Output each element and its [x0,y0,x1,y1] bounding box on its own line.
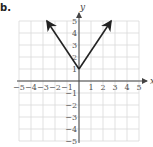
y-tick-label: 4 [72,29,77,38]
x-tick-label: −2 [49,83,61,92]
y-tick-label: −5 [65,137,77,146]
y-tick-label: −2 [65,101,77,110]
x-tick-label: 5 [136,83,141,92]
y-tick-label: −4 [65,125,77,134]
x-tick-label: 4 [124,83,129,92]
y-tick-label: 5 [72,17,77,26]
y-tick-label: 3 [72,41,77,50]
y-tick-label: −3 [65,113,77,122]
y-tick-label: −1 [65,89,77,98]
x-tick-label: 2 [100,83,105,92]
x-tick-label: −5 [13,83,25,92]
axes: xy [17,2,153,143]
x-tick-label: −3 [37,83,49,92]
x-tick-label: 1 [88,83,93,92]
x-tick-label: 3 [112,83,117,92]
x-tick-label: −4 [25,83,37,92]
y-axis-label: y [79,2,86,12]
y-tick-label: 1 [72,65,77,74]
x-axis-label: x [150,76,153,86]
coordinate-plane: xy −5−4−3−2−11234554321−1−2−3−4−5 [0,0,153,147]
